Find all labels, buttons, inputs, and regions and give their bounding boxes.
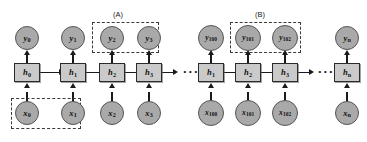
input-node-x100-sub: 100	[209, 112, 217, 117]
arrowhead-x2-to-h2	[109, 83, 115, 88]
input-node-x2-sub: 2	[113, 112, 116, 118]
input-node-x101-sub: 101	[246, 112, 254, 117]
arrowhead-h2-to-y2	[109, 50, 115, 55]
state-node-h101[interactable]: h2	[235, 63, 261, 82]
state-node-h0[interactable]: h0	[14, 63, 40, 82]
group-label-b: (B)	[255, 10, 265, 19]
arrowhead-x100-to-h100	[208, 83, 214, 88]
state-node-h101-sub: 2	[249, 72, 252, 78]
output-node-y101[interactable]: y101	[235, 25, 261, 51]
connector-h101-to-y101	[247, 55, 248, 63]
arrowhead-h1-to-y1	[70, 50, 76, 55]
state-node-h100-sub: 1	[212, 72, 215, 78]
state-node-hn[interactable]: hn	[334, 63, 360, 82]
arrowhead-h102-to-ellipsis	[309, 69, 314, 75]
state-node-h100[interactable]: h1	[198, 63, 224, 82]
connector-h2-to-y2	[111, 55, 112, 63]
group-label-a: (A)	[113, 10, 123, 19]
input-node-x3[interactable]: x3	[137, 101, 161, 125]
input-node-x3-sub: 3	[150, 112, 153, 118]
input-node-xn-sub: n	[348, 112, 351, 118]
output-node-y2-sub: 2	[113, 37, 116, 43]
output-node-y102[interactable]: y102	[272, 25, 298, 51]
state-node-h102[interactable]: h3	[272, 63, 298, 82]
state-node-h102-sub: 3	[286, 72, 289, 78]
state-node-h2-sub: 2	[113, 72, 116, 78]
connector-h3-to-y3	[148, 55, 149, 63]
state-node-h3[interactable]: h3	[136, 63, 162, 82]
state-node-h1[interactable]: h1	[60, 63, 86, 82]
arrowhead-h3-to-ellipsis	[173, 69, 178, 75]
arrowhead-h3-to-y3	[146, 50, 152, 55]
connector-hn-to-yn	[346, 55, 347, 63]
input-node-x101[interactable]: x101	[235, 100, 261, 126]
arrowhead-x1-to-h1	[70, 83, 76, 88]
state-node-h2[interactable]: h2	[99, 63, 125, 82]
connector-h102-to-y102	[284, 55, 285, 63]
output-node-y1-sub: 1	[74, 37, 77, 43]
ellipsis-right: ···	[318, 65, 335, 78]
input-node-x102[interactable]: x102	[272, 100, 298, 126]
input-node-x1-sub: 1	[74, 112, 77, 118]
arrowhead-x0-to-h0	[24, 83, 30, 88]
connector-h0-to-h1	[40, 72, 60, 73]
input-node-x0[interactable]: x0	[15, 101, 39, 125]
input-node-xn[interactable]: xn	[335, 101, 359, 125]
output-node-yn-sub: n	[347, 37, 350, 43]
output-node-y100-sub: 100	[209, 37, 217, 42]
output-node-y102-sub: 102	[283, 37, 291, 42]
output-node-y0-sub: 0	[28, 37, 31, 43]
output-node-y3[interactable]: y3	[137, 26, 161, 50]
arrowhead-x101-to-h101	[245, 83, 251, 88]
connector-h100-to-y100	[210, 55, 211, 63]
arrowhead-hn-to-yn	[344, 50, 350, 55]
output-node-y0[interactable]: y0	[15, 26, 39, 50]
input-node-x0-sub: 0	[28, 112, 31, 118]
arrowhead-x3-to-h3	[146, 83, 152, 88]
output-node-yn[interactable]: yn	[335, 26, 359, 50]
arrowhead-x102-to-h102	[282, 83, 288, 88]
state-node-h1-sub: 1	[74, 72, 77, 78]
input-node-x2[interactable]: x2	[100, 101, 124, 125]
output-node-y2[interactable]: y2	[100, 26, 124, 50]
arrowhead-xn-to-hn	[344, 83, 350, 88]
output-node-y100[interactable]: y100	[198, 25, 224, 51]
state-node-h3-sub: 3	[150, 72, 153, 78]
state-node-h0-sub: 0	[28, 72, 31, 78]
connector-h0-to-y0	[26, 55, 27, 63]
output-node-y101-sub: 101	[246, 37, 254, 42]
output-node-y1[interactable]: y1	[61, 26, 85, 50]
state-node-hn-sub: n	[348, 72, 351, 78]
output-node-y3-sub: 3	[150, 37, 153, 43]
input-node-x1[interactable]: x1	[61, 101, 85, 125]
rnn-unrolled-diagram: (A) (B) y0 h0 x0 y1 h1 x1 y2 h2	[0, 0, 367, 142]
input-node-x100[interactable]: x100	[198, 100, 224, 126]
arrowhead-h0-to-y0	[24, 50, 30, 55]
connector-h1-to-y1	[72, 55, 73, 63]
input-node-x102-sub: 102	[283, 112, 291, 117]
